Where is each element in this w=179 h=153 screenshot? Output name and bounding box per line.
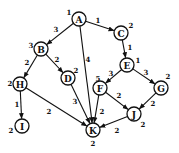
node-g: G2 xyxy=(154,72,171,96)
node-f: F5 xyxy=(93,74,107,96)
node-b: B3 xyxy=(29,41,48,57)
edge-weight: 4 xyxy=(86,55,91,64)
node-value: 2 xyxy=(141,120,146,129)
node-value: 2 xyxy=(9,126,14,135)
node-label: G xyxy=(157,84,165,94)
edge-a-b xyxy=(47,23,74,44)
edge-weight: 2 xyxy=(117,91,122,100)
edge-weight: 2 xyxy=(55,55,60,64)
node-k: K2 xyxy=(86,123,100,148)
edge-weight: 1 xyxy=(96,16,101,25)
node-label: A xyxy=(75,15,84,25)
node-j: J2 xyxy=(127,107,146,129)
edge-weight: 1 xyxy=(128,43,133,52)
edge-weight: 2 xyxy=(115,126,120,135)
node-d: D2 xyxy=(61,66,79,86)
node-label: K xyxy=(89,126,98,136)
edge-c-e xyxy=(122,40,125,58)
node-label: F xyxy=(97,84,104,94)
node-label: C xyxy=(117,29,124,39)
node-label: J xyxy=(131,110,136,120)
node-value: 3 xyxy=(29,41,34,50)
node-label: D xyxy=(64,74,72,84)
node-value: 2 xyxy=(166,72,171,81)
edge-h-i xyxy=(20,91,21,119)
edge-weight: 3 xyxy=(54,25,59,34)
node-value: 2 xyxy=(129,21,134,30)
node-label: H xyxy=(16,80,25,90)
node-value: 1 xyxy=(136,56,141,65)
edge-weight: 3 xyxy=(144,68,149,77)
node-h: H2 xyxy=(8,77,27,91)
edge-weight: 1 xyxy=(15,100,20,109)
node-value: 2 xyxy=(8,79,13,88)
node-value: 2 xyxy=(91,139,96,148)
node-label: B xyxy=(37,45,45,55)
node-e: E1 xyxy=(120,56,141,73)
edge-a-k xyxy=(80,26,92,123)
edge-f-k xyxy=(94,95,99,123)
edge-weight: 2 xyxy=(47,107,52,116)
node-label: I xyxy=(20,122,24,132)
edge-weight: 2 xyxy=(25,58,30,67)
node-i: I2 xyxy=(9,119,29,135)
node-c: C2 xyxy=(114,21,134,41)
node-label: E xyxy=(124,61,131,71)
edge-h-k xyxy=(26,88,87,126)
edge-weight: 2 xyxy=(151,99,156,108)
edge-weight: 3 xyxy=(109,69,114,78)
node-a: A1 xyxy=(67,8,86,27)
node-value: 2 xyxy=(74,66,79,75)
node-value: 1 xyxy=(67,8,72,17)
weighted-directed-graph: 314221331232222 A1B3C2D2E1F5G2H2I2J2K2 xyxy=(0,0,179,153)
edge-weight: 2 xyxy=(100,107,105,116)
node-value: 5 xyxy=(96,74,101,83)
edge-weight: 3 xyxy=(73,97,78,106)
